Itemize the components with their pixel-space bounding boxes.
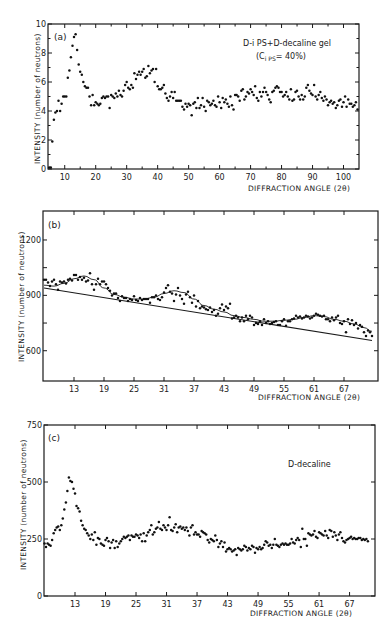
data-point <box>194 531 197 534</box>
data-point <box>329 320 332 323</box>
data-point <box>217 95 220 98</box>
data-point <box>221 97 224 100</box>
data-point <box>203 105 206 108</box>
data-point <box>94 531 97 534</box>
data-point <box>103 280 106 283</box>
data-point <box>324 95 327 98</box>
data-point <box>149 529 152 532</box>
figure: 1020304050607080901000246810 (a) D-i PS+… <box>0 0 392 620</box>
data-point <box>57 100 60 103</box>
data-point <box>104 539 107 542</box>
fit-lines-b <box>44 276 372 341</box>
data-point <box>257 100 260 103</box>
data-point <box>184 529 187 532</box>
data-point <box>179 294 182 297</box>
data-point <box>267 320 270 323</box>
data-point <box>153 531 156 534</box>
data-point <box>278 546 281 549</box>
data-point <box>223 101 226 104</box>
data-point <box>344 95 347 98</box>
data-point <box>319 91 322 94</box>
data-point <box>272 543 275 546</box>
data-point <box>339 98 342 101</box>
x-tick-label: 49 <box>253 600 263 609</box>
data-point <box>183 108 186 111</box>
data-point <box>281 320 284 323</box>
axis-ticks-c: 131925313743495561670250500750 <box>27 421 375 609</box>
data-point <box>200 104 203 107</box>
data-point <box>118 89 121 92</box>
data-point <box>91 94 94 97</box>
data-point <box>150 524 153 527</box>
data-point <box>300 94 303 97</box>
data-point <box>245 546 248 549</box>
data-point <box>345 331 348 334</box>
data-point <box>107 287 110 290</box>
panel-label-b: (b) <box>48 220 61 230</box>
data-point <box>251 316 254 319</box>
data-point <box>79 71 82 74</box>
data-point <box>152 68 155 71</box>
data-point <box>298 539 301 542</box>
data-point <box>173 91 176 94</box>
data-point <box>122 89 125 92</box>
data-point <box>229 95 232 98</box>
panel-c: 131925313743495561670250500750 (c) D-dec… <box>19 421 375 618</box>
data-point <box>107 95 110 98</box>
data-point <box>316 537 319 540</box>
data-point <box>110 541 113 544</box>
data-point <box>343 320 346 323</box>
data-point <box>233 316 236 319</box>
data-point <box>338 533 341 536</box>
x-tick-label: 55 <box>283 600 293 609</box>
data-point <box>242 88 245 91</box>
data-point <box>132 87 135 90</box>
data-point <box>299 98 302 101</box>
data-point <box>153 296 156 299</box>
data-point <box>225 305 228 308</box>
data-point <box>367 540 370 543</box>
data-point <box>218 101 221 104</box>
data-point <box>229 548 232 551</box>
data-point <box>356 108 359 111</box>
annotation-c: D-decaline <box>288 460 331 469</box>
data-point <box>266 541 269 544</box>
x-tick-label: 43 <box>219 385 229 394</box>
data-point <box>297 95 300 98</box>
x-tick-label: 19 <box>100 600 110 609</box>
data-point <box>163 291 166 294</box>
annotation-a-value: = 40%) <box>276 52 306 61</box>
data-point <box>259 91 262 94</box>
data-point <box>166 97 169 100</box>
data-point <box>327 318 330 321</box>
data-point <box>184 103 187 106</box>
data-point <box>263 87 266 90</box>
data-point <box>254 85 257 88</box>
data-point <box>205 533 208 536</box>
data-point <box>321 97 324 100</box>
data-point <box>238 100 241 103</box>
data-point <box>351 319 354 322</box>
data-point <box>361 325 364 328</box>
data-point <box>330 100 333 103</box>
data-point <box>67 76 70 79</box>
data-point <box>60 524 63 527</box>
data-point <box>131 299 134 302</box>
data-point <box>127 534 130 537</box>
data-point <box>59 110 62 113</box>
y-axis-label-b: INTENSITY (number of neutrons) <box>17 231 26 362</box>
data-point <box>219 542 222 545</box>
data-point <box>49 545 52 548</box>
data-point <box>167 100 170 103</box>
data-point <box>51 140 54 143</box>
x-tick-label: 90 <box>307 173 317 182</box>
data-point <box>60 103 63 106</box>
data-point <box>365 335 368 338</box>
data-point <box>136 74 139 77</box>
data-point <box>243 98 246 101</box>
data-point <box>269 101 272 104</box>
data-point <box>71 279 74 282</box>
data-point <box>149 301 152 304</box>
data-point <box>257 323 260 326</box>
data-point <box>53 278 56 281</box>
